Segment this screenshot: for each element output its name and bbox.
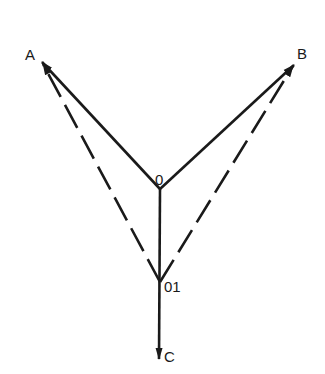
edge-o1-to-b-dashed bbox=[160, 66, 293, 282]
label-o: 0 bbox=[155, 171, 163, 188]
edge-o1-to-a-dashed bbox=[43, 64, 160, 282]
vector-diagram: A B 0 01 C bbox=[0, 0, 325, 374]
label-c: C bbox=[164, 348, 175, 365]
edge-o-to-c bbox=[159, 189, 160, 359]
label-b: B bbox=[297, 45, 307, 62]
label-a: A bbox=[25, 46, 35, 63]
label-o1: 01 bbox=[164, 278, 181, 295]
edge-o-to-b bbox=[160, 65, 294, 189]
